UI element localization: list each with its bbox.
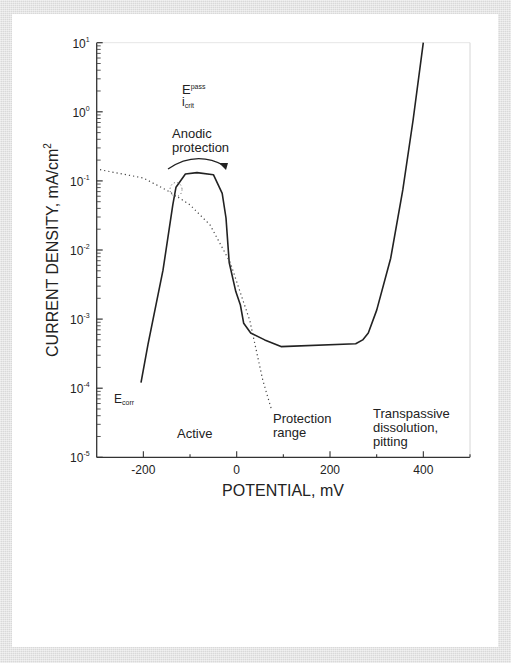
x-tick-label: -200 bbox=[131, 463, 155, 477]
anodic-protection-label-1: Anodic bbox=[172, 126, 212, 141]
y-tick-label: 10-3 bbox=[70, 312, 90, 327]
y-tick-label: 100 bbox=[72, 105, 89, 120]
y-axis-ticks: 10110010-110-210-310-410-5 bbox=[70, 36, 103, 466]
transpassive-label-1: Transpassive bbox=[373, 406, 450, 421]
anodic-protection-arrow-icon bbox=[168, 159, 225, 169]
axes bbox=[97, 43, 470, 458]
x-tick-label: 400 bbox=[413, 463, 433, 477]
transpassive-label-2: dissolution, bbox=[373, 420, 438, 435]
y-axis-title: CURRENT DENSITY, mA/cm2 bbox=[42, 143, 61, 357]
active-region-label: Active bbox=[177, 426, 212, 441]
anodic-protection-label-2: protection bbox=[172, 140, 229, 155]
x-tick-label: 0 bbox=[233, 463, 240, 477]
arrowhead-icon bbox=[219, 163, 228, 170]
protection-range-label-1: Protection bbox=[273, 411, 332, 426]
y-tick-label: 10-1 bbox=[70, 174, 90, 189]
y-tick-label: 10-4 bbox=[70, 381, 90, 396]
y-tick-label: 101 bbox=[72, 36, 89, 51]
y-tick-label: 10-5 bbox=[70, 450, 90, 465]
icrit-label: icrit bbox=[182, 95, 194, 109]
cathodic-dotted-curve bbox=[100, 170, 272, 411]
ecorr-label: Ecorr bbox=[114, 392, 135, 406]
x-axis-title: POTENTIAL, mV bbox=[222, 482, 344, 499]
protection-range-label-2: range bbox=[273, 425, 306, 440]
polarization-chart: 10110010-110-210-310-410-5 -2000200400 E… bbox=[0, 0, 511, 663]
epass-label: Epass bbox=[182, 82, 206, 97]
transpassive-label-3: pitting bbox=[373, 434, 408, 449]
x-tick-label: 200 bbox=[320, 463, 340, 477]
series-group bbox=[100, 43, 423, 411]
x-axis-ticks: -2000200400 bbox=[131, 451, 470, 477]
y-tick-label: 10-2 bbox=[70, 243, 90, 258]
